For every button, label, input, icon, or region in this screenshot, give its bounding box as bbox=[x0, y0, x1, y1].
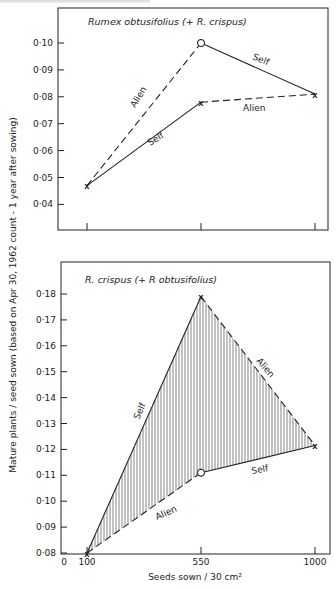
x-tick-label: 0 bbox=[61, 557, 67, 567]
x-marker: x bbox=[198, 98, 204, 108]
x-marker: x bbox=[84, 181, 90, 191]
series-line-self bbox=[87, 297, 201, 553]
bottom-panel-frame bbox=[61, 262, 330, 554]
clipped-caption-line bbox=[0, 0, 150, 3]
top-y-axis-ticks: 0·040·050·060·070·080·090·10 bbox=[33, 38, 64, 209]
y-tick-label: 0·09 bbox=[36, 522, 56, 532]
y-axis-title: Mature plants / seed sown (based on Apr … bbox=[8, 117, 18, 472]
y-tick-label: 0·11 bbox=[36, 470, 56, 480]
x-axis-title: Seeds sown / 30 cm² bbox=[148, 572, 242, 582]
y-tick-label: 0·05 bbox=[33, 173, 53, 183]
y-tick-label: 0·04 bbox=[33, 199, 53, 209]
y-tick-label: 0·08 bbox=[33, 92, 53, 102]
y-tick-label: 0·10 bbox=[36, 496, 56, 506]
bottom-label-alien-left: Alien bbox=[154, 504, 179, 522]
bottom-label-alien-right: Alien bbox=[254, 356, 276, 380]
x-marker: x bbox=[84, 549, 90, 559]
top-label-self-left: Self bbox=[146, 130, 166, 148]
y-tick-label: 0·07 bbox=[33, 119, 53, 129]
top-label-alien-right: Alien bbox=[243, 103, 265, 113]
circle-marker bbox=[198, 469, 205, 476]
top-x-axis-ticks bbox=[87, 223, 315, 230]
top-panel-title: Rumex obtusifolius (+ R. crispus) bbox=[88, 16, 247, 27]
y-tick-label: 0·16 bbox=[36, 341, 56, 351]
shaded-region bbox=[86, 290, 314, 556]
y-tick-label: 0·14 bbox=[36, 393, 56, 403]
figure: Rumex obtusifolius (+ R. crispus) 0·040·… bbox=[0, 0, 336, 589]
series-line-alien bbox=[201, 94, 315, 102]
bottom-series-markers: xxxxxx bbox=[84, 292, 318, 558]
bottom-label-self-left: Self bbox=[132, 401, 148, 421]
y-tick-label: 0·12 bbox=[36, 444, 56, 454]
y-tick-label: 0·08 bbox=[36, 548, 56, 558]
top-label-self-right: Self bbox=[251, 52, 271, 68]
y-tick-label: 0·13 bbox=[36, 419, 56, 429]
top-series-lines bbox=[87, 43, 315, 186]
bottom-y-axis-ticks: 0·080·090·100·110·120·130·140·150·160·17… bbox=[36, 289, 67, 558]
top-series-markers: xxxxxx bbox=[84, 40, 318, 192]
y-tick-label: 0·09 bbox=[33, 65, 53, 75]
x-tick-label: 1000 bbox=[304, 557, 327, 567]
bottom-label-self-right: Self bbox=[251, 463, 270, 476]
series-line-self bbox=[201, 43, 315, 94]
y-tick-label: 0·10 bbox=[33, 38, 53, 48]
bottom-panel: R. crispus (+ R obtusifolius) 0·080·090·… bbox=[36, 262, 330, 582]
y-tick-label: 0·15 bbox=[36, 367, 56, 377]
bottom-x-axis-ticks: 01005501000 bbox=[61, 547, 327, 567]
top-panel-frame bbox=[58, 8, 328, 230]
chart-canvas: Rumex obtusifolius (+ R. crispus) 0·040·… bbox=[0, 0, 336, 589]
top-panel: Rumex obtusifolius (+ R. crispus) 0·040·… bbox=[33, 8, 328, 230]
x-marker: x bbox=[312, 441, 318, 451]
x-tick-label: 100 bbox=[78, 557, 95, 567]
x-marker: x bbox=[198, 292, 204, 302]
x-tick-label: 550 bbox=[192, 557, 209, 567]
y-tick-label: 0·18 bbox=[36, 289, 56, 299]
circle-marker bbox=[198, 40, 205, 47]
x-marker: x bbox=[312, 90, 318, 100]
y-tick-label: 0·06 bbox=[33, 146, 53, 156]
bottom-panel-title: R. crispus (+ R obtusifolius) bbox=[85, 274, 217, 285]
y-tick-label: 0·17 bbox=[36, 315, 56, 325]
top-label-alien-left: Alien bbox=[128, 85, 148, 109]
